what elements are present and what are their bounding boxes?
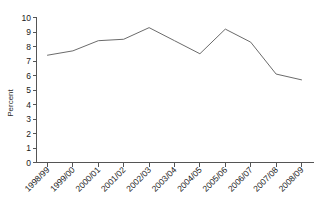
y-axis-title: Percent — [6, 88, 15, 116]
y-axis-tick-label: 10 — [22, 13, 32, 23]
y-axis-tick-label: 2 — [26, 129, 31, 139]
y-axis-tick-label: 4 — [26, 100, 31, 110]
y-axis-tick-label: 3 — [26, 114, 31, 124]
chart-canvas: 012345678910 1998/991999/002000/012001/0… — [0, 0, 321, 212]
y-axis-tick-label: 7 — [26, 56, 31, 66]
y-axis-tick-label: 0 — [26, 158, 31, 168]
y-axis-tick-label: 9 — [26, 27, 31, 37]
y-axis-tick-label: 5 — [26, 85, 31, 95]
y-axis-tick-label: 6 — [26, 71, 31, 81]
line-chart: 012345678910 1998/991999/002000/012001/0… — [0, 0, 321, 212]
y-axis-tick-label: 8 — [26, 42, 31, 52]
y-axis-tick-label: 1 — [26, 143, 31, 153]
y-axis-title-text: Percent — [6, 88, 15, 116]
